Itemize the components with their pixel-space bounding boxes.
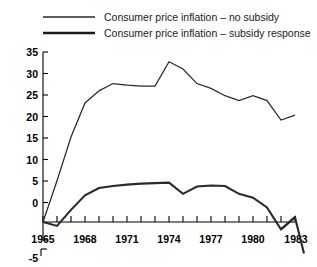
legend-label-subsidy-response: Consumer price inflation – subsidy respo… (104, 27, 311, 39)
y-axis: 35 30 25 20 15 10 5 0 -5 (26, 46, 48, 264)
series-line-no-subsidy (43, 62, 295, 222)
x-tick-label-1971: 1971 (115, 233, 139, 245)
x-tick-label-1965: 1965 (31, 233, 55, 245)
x-tick-label-1983: 1983 (284, 233, 308, 245)
chart-container: Consumer price inflation – no subsidy Co… (0, 0, 317, 267)
y-tick-label-5: 5 (32, 175, 38, 187)
x-tick-label-1977: 1977 (199, 233, 223, 245)
chart-legend: Consumer price inflation – no subsidy Co… (43, 11, 311, 39)
x-tick-label-1968: 1968 (73, 233, 97, 245)
y-tick-label-0: 0 (32, 197, 38, 209)
plot-area (43, 62, 304, 254)
y-tick-label-10: 10 (26, 154, 38, 166)
legend-label-no-subsidy: Consumer price inflation – no subsidy (104, 11, 280, 23)
y-tick-label-30: 30 (26, 68, 38, 80)
x-axis: 1965 1968 1971 1974 1977 1980 1983 (31, 216, 308, 245)
x-tick-label-1974: 1974 (157, 233, 181, 245)
y-tick-label-25: 25 (26, 89, 38, 101)
inflation-line-chart: Consumer price inflation – no subsidy Co… (0, 0, 317, 267)
y-tick-label-20: 20 (26, 111, 38, 123)
y-tick-label-15: 15 (26, 132, 38, 144)
y-tick-label-minus5: -5 (29, 252, 38, 264)
y-tick-label-35: 35 (26, 46, 38, 58)
x-tick-label-1980: 1980 (241, 233, 265, 245)
